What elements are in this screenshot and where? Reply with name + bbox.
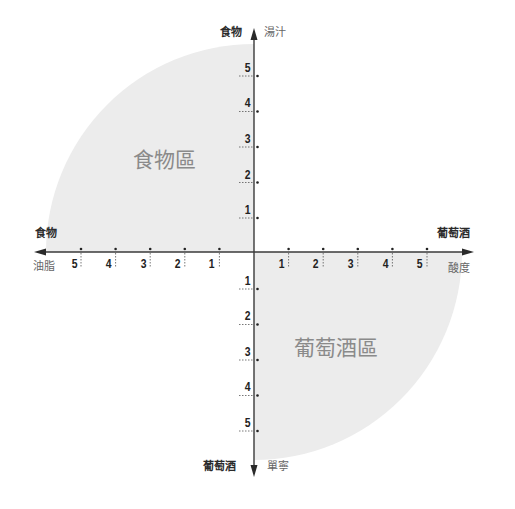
bottom-tick-label-4: 4 xyxy=(245,380,251,393)
right-tick-label-3: 3 xyxy=(348,257,354,270)
bottom-tick-label-3: 3 xyxy=(245,345,251,358)
left-arrow-icon xyxy=(34,249,46,256)
top-axis-dimension-label: 湯汁 xyxy=(264,27,286,38)
right-arrow-icon xyxy=(462,249,474,256)
down-arrow-icon xyxy=(251,465,258,477)
right-tick-label-1: 1 xyxy=(279,257,285,270)
right-axis-category-label: 葡萄酒 xyxy=(437,228,470,239)
bottom-axis-category-label: 葡萄酒 xyxy=(203,461,236,472)
top-tick-dots xyxy=(256,75,259,220)
bottom-tick-label-2: 2 xyxy=(245,309,251,322)
right-tick-label-5: 5 xyxy=(417,257,423,270)
right-tick-label-2: 2 xyxy=(313,257,319,270)
left-axis-category-label: 食物 xyxy=(35,228,57,239)
left-tick-label-5: 5 xyxy=(72,257,78,270)
bottom-axis-dimension-label: 單寧 xyxy=(267,461,289,472)
top-tick-label-4: 4 xyxy=(245,96,251,109)
left-tick-label-3: 3 xyxy=(141,257,147,270)
right-axis-dimension-label: 酸度 xyxy=(448,263,470,274)
wine-region-label: 葡萄酒區 xyxy=(294,338,378,359)
left-ticks xyxy=(81,253,219,268)
top-tick-label-1: 1 xyxy=(245,203,251,216)
bottom-tick-label-1: 1 xyxy=(245,274,251,287)
left-axis-dimension-label: 油脂 xyxy=(33,261,55,272)
pairing-diagram xyxy=(0,0,515,509)
right-tick-label-4: 4 xyxy=(383,257,389,270)
top-tick-label-3: 3 xyxy=(245,132,251,145)
up-arrow-icon xyxy=(251,28,258,40)
food-region-label: 食物區 xyxy=(133,150,196,171)
bottom-tick-label-5: 5 xyxy=(245,416,251,429)
left-tick-label-1: 1 xyxy=(209,257,215,270)
left-tick-label-4: 4 xyxy=(106,257,112,270)
top-tick-label-2: 2 xyxy=(245,168,251,181)
top-tick-label-5: 5 xyxy=(245,61,251,74)
top-axis-category-label: 食物 xyxy=(220,27,242,38)
right-tick-dots xyxy=(287,248,428,251)
left-tick-label-2: 2 xyxy=(175,257,181,270)
